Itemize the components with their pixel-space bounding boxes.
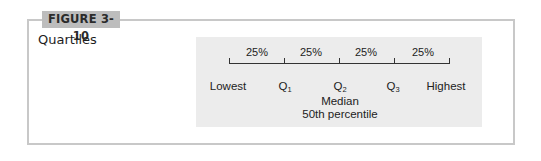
point-q1: Q1 (278, 80, 291, 94)
figure-number-label: FIGURE 3-10 (42, 11, 120, 28)
segment-3-percent: 25% (355, 46, 377, 58)
median-note: 50th percentile (302, 108, 377, 120)
segment-2-percent: 25% (300, 46, 322, 58)
figure-title: Quartiles (38, 32, 97, 47)
segment-4-percent: 25% (412, 46, 434, 58)
median-label: Median (321, 95, 359, 107)
tick-q3 (394, 58, 395, 64)
tick-q2 (339, 58, 340, 64)
point-lowest: Lowest (210, 80, 246, 92)
tick-highest (449, 58, 450, 64)
tick-q1 (284, 58, 285, 64)
segment-1-percent: 25% (246, 46, 268, 58)
point-highest: Highest (427, 80, 466, 92)
point-q2: Q2 (333, 80, 346, 94)
point-q3: Q3 (386, 80, 399, 94)
tick-lowest (229, 58, 230, 64)
